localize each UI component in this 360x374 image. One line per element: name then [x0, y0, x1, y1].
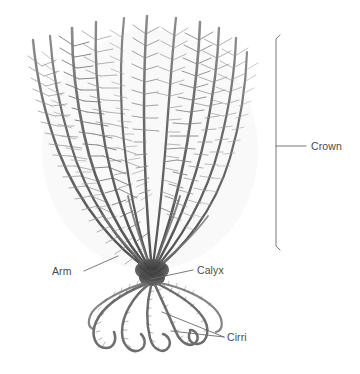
label-cirri: Cirri — [227, 331, 247, 343]
label-crown: Crown — [311, 140, 342, 152]
crinoid-anatomy-figure: Crown Arm Calyx Cirri — [0, 0, 360, 374]
label-calyx: Calyx — [197, 264, 224, 276]
label-arm: Arm — [52, 265, 72, 277]
crown-tonal-wash — [42, 30, 258, 270]
crinoid-illustration — [0, 0, 360, 374]
